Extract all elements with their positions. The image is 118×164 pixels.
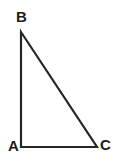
triangle-outline	[21, 32, 97, 147]
vertex-label-a: A	[8, 138, 19, 153]
vertex-label-c: C	[100, 137, 111, 152]
triangle-figure: B A C	[0, 0, 118, 164]
vertex-label-b: B	[16, 9, 27, 24]
